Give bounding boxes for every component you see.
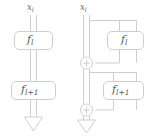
residual-input-label: xl <box>80 3 87 13</box>
plain-trunk-top <box>31 15 37 31</box>
residual-output-arrowhead <box>78 120 96 133</box>
plain-input-label-sub: l <box>32 6 34 13</box>
figure-canvas: .ln { fill:none; stroke:#c9c9c9; stroke-… <box>0 0 146 137</box>
residual-block-f-l-label: fl <box>121 34 127 47</box>
plain-block-f-l <box>15 32 53 50</box>
plain-output-arrowhead <box>25 117 43 131</box>
residual-panel-graphics <box>78 15 144 133</box>
plain-trunk-middle <box>31 50 37 81</box>
residual-block-f-l1-label-sub: l+1 <box>116 88 129 97</box>
plain-block-f-l-label-sub: l <box>31 38 33 47</box>
residual-branch-1-out <box>96 50 120 64</box>
residual-trunk-middle <box>84 69 90 104</box>
residual-trunk-top <box>84 15 90 57</box>
residual-block-f-l-plus-1-label: fl+1 <box>112 84 130 97</box>
residual-branch-2-in <box>90 73 137 82</box>
residual-adder-node-1 <box>81 57 93 69</box>
residual-input-label-sub: l <box>85 6 87 13</box>
residual-branch-1-in <box>90 21 137 32</box>
plain-block-f-l1-label-sub: l+1 <box>25 88 38 97</box>
plain-trunk-bottom <box>31 100 37 117</box>
residual-block-f-l-label-sub: l <box>125 38 127 47</box>
residual-trunk-bottom <box>84 116 90 120</box>
plain-panel-graphics <box>12 15 56 131</box>
plain-block-f-l-plus-1-label: fl+1 <box>21 84 39 97</box>
plain-block-f-l-label: fl <box>27 34 33 47</box>
plain-input-label: xl <box>27 3 34 13</box>
residual-adder-node-2 <box>81 104 93 116</box>
diagram-vector-layer: .ln { fill:none; stroke:#c9c9c9; stroke-… <box>0 0 146 137</box>
residual-branch-2-out <box>96 100 114 111</box>
